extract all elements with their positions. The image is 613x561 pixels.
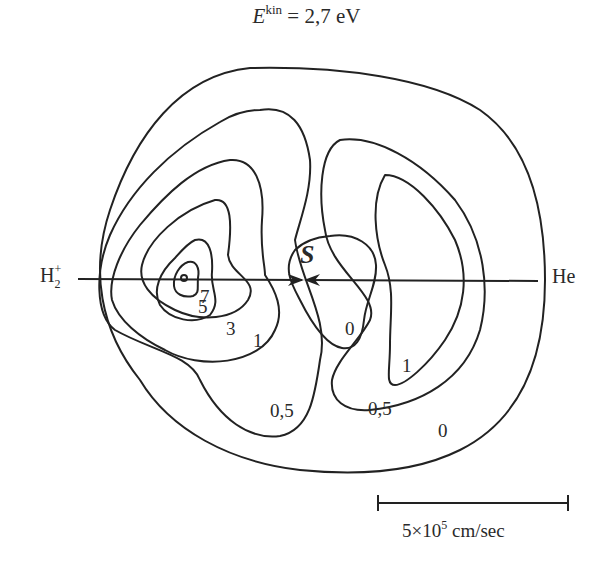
he-label: He (552, 265, 575, 288)
scale-mantissa: 5×10 (402, 520, 441, 541)
level-label-1-right: 1 (402, 355, 412, 377)
contour-outer-0 (100, 68, 545, 473)
h2-subscript: 2 (54, 277, 60, 291)
h2-letter: H (40, 264, 54, 286)
level-label-0.5-left: 0,5 (270, 400, 294, 422)
level-label-5: 5 (198, 296, 208, 318)
level-label-1-left: 1 (253, 330, 263, 352)
saddle-point-label: S (300, 240, 314, 270)
h2-plus-label: H2+ (40, 264, 67, 287)
scale-bar-label: 5×105 cm/sec (402, 518, 505, 542)
h2-superscript: + (54, 262, 61, 276)
level-label-3: 3 (226, 318, 236, 340)
level-label-inner-0: 0 (345, 318, 355, 340)
level-label-outer-0: 0 (438, 420, 448, 442)
axis-right-segment (306, 280, 538, 281)
contour-map (0, 0, 613, 561)
scale-unit: cm/sec (447, 520, 505, 541)
axis-left-segment (78, 279, 302, 280)
level-label-0.5-right: 0,5 (368, 398, 392, 420)
